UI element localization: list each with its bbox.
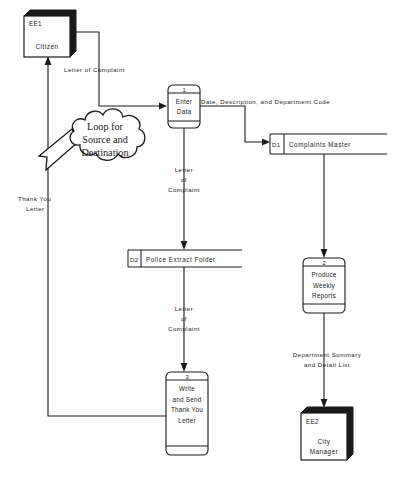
process-2-line3: Reports bbox=[312, 292, 336, 300]
flow-label-letter-of-complaint-2: Letter of Complaint bbox=[168, 166, 200, 193]
process-2-produce-weekly-reports[interactable]: 2 Produce Weekly Reports bbox=[303, 258, 345, 313]
cloud-line-2: Source and bbox=[82, 134, 128, 145]
d1-id: D1 bbox=[272, 141, 281, 148]
flow-d1-to-produce-weekly-reports bbox=[321, 154, 328, 258]
flow-date-description-department-code-to-d1 bbox=[200, 106, 270, 145]
flow-label-department-summary-and-detail-list: Department Summary and Detail List bbox=[293, 351, 362, 368]
process-1-enter-data[interactable]: 1 Enter Data bbox=[168, 85, 200, 128]
flow-label-3-line1: Letter bbox=[175, 305, 194, 312]
process-3-line4: Letter bbox=[178, 417, 196, 424]
annotation-cloud-loop-for-source-and-destination: Loop for Source and Destination bbox=[39, 109, 145, 170]
process-3-line3: Thank You bbox=[171, 406, 203, 413]
flow-label-6-line1: Thank You bbox=[18, 195, 51, 202]
flow-label-letter-of-complaint-1: Letter of Complaint bbox=[64, 66, 125, 73]
flow-label-2-line2: of bbox=[181, 176, 187, 183]
process-1-line1: Enter bbox=[176, 98, 192, 105]
d2-name: Police Extract Folder bbox=[146, 256, 216, 263]
process-1-line2: Data bbox=[177, 108, 192, 115]
flow-label-3-line3: Complaint bbox=[168, 325, 200, 332]
external-entity-ee2[interactable]: EE2 City Manager bbox=[301, 407, 353, 460]
cloud-line-1: Loop for bbox=[87, 121, 124, 132]
flow-label-date-description-department-code: Date, Description, and Department Code bbox=[201, 98, 330, 105]
ee2-name-line2: Manager bbox=[310, 448, 339, 456]
process-3-line1: Write bbox=[179, 385, 195, 392]
flow-label-2-line3: Complaint bbox=[168, 186, 200, 193]
flow-label-5-line2: and Detail List bbox=[304, 361, 350, 368]
data-flow-diagram-canvas: EE1 Citizen 1 Enter Data 2 Produce Weekl… bbox=[0, 0, 397, 477]
flow-label-2-line1: Letter bbox=[175, 166, 194, 173]
flow-label-thank-you-letter: Thank You Letter bbox=[18, 195, 51, 212]
flow-label-5-line1: Department Summary bbox=[293, 351, 362, 358]
ee2-name-line1: City bbox=[317, 438, 330, 446]
cloud-line-3: Destination bbox=[82, 147, 129, 158]
flow-label-3-line2: of bbox=[181, 315, 187, 322]
data-store-d2-police-extract-folder[interactable]: D2 Police Extract Folder bbox=[128, 250, 242, 267]
process-3-line2: and Send bbox=[173, 396, 202, 403]
diagram-svg: EE1 Citizen 1 Enter Data 2 Produce Weekl… bbox=[0, 0, 397, 477]
d1-name: Complaints Master bbox=[289, 141, 351, 149]
data-store-d1-complaints-master[interactable]: D1 Complaints Master bbox=[270, 134, 387, 154]
ee1-id: EE1 bbox=[29, 20, 42, 27]
ee2-id: EE2 bbox=[306, 418, 319, 425]
process-3-number: 3 bbox=[185, 374, 188, 380]
flow-label-letter-of-complaint-3: Letter of Complaint bbox=[168, 305, 200, 332]
process-2-number: 2 bbox=[322, 260, 325, 266]
d2-id: D2 bbox=[130, 256, 139, 263]
process-1-number: 1 bbox=[182, 87, 185, 93]
process-2-line2: Weekly bbox=[313, 282, 336, 290]
flow-thank-you-letter-to-ee1 bbox=[45, 56, 166, 416]
ee1-name: Citizen bbox=[35, 43, 58, 50]
process-2-line1: Produce bbox=[311, 271, 336, 278]
process-3-write-and-send-thank-you-letter[interactable]: 3 Write and Send Thank You Letter bbox=[166, 372, 208, 455]
external-entity-ee1[interactable]: EE1 Citizen bbox=[24, 10, 76, 57]
flow-label-6-line2: Letter bbox=[26, 205, 45, 212]
